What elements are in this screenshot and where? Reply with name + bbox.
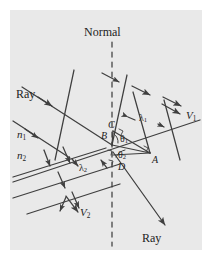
- normal-label: Normal: [84, 26, 121, 38]
- theta1-subscript: 1: [125, 137, 128, 144]
- wavefront-arrow-n2-a: [44, 150, 50, 166]
- incident-ray-label: Ray: [16, 88, 35, 100]
- lambda1-label: λ1: [139, 113, 147, 124]
- incident-wavefront-1: [55, 70, 74, 160]
- lambda1-tick-right: [158, 124, 164, 127]
- wavefront-n2-b: [13, 164, 120, 198]
- lambda2-tick-right: [101, 160, 107, 168]
- incident-ray-arrow-2: [25, 129, 38, 138]
- v1-symbol: V: [186, 109, 193, 121]
- v2-symbol: V: [80, 206, 87, 218]
- lambda2-label: λ2: [79, 163, 87, 174]
- lambda1-subscript: 1: [144, 116, 147, 123]
- wavefront-arrow-n1-0: [102, 73, 119, 82]
- wavefront-arrow-n1-a: [132, 86, 150, 95]
- figure-canvas: Normal Ray Ray n1 n2 θ1 θ2 λ1 λ2 V1 V2 A…: [0, 0, 212, 266]
- wavefront-arrow-n2-e: [60, 197, 66, 211]
- diagram-strokes: [13, 42, 200, 246]
- velocity-v1-label: V1: [186, 110, 196, 123]
- point-d-label: D: [118, 162, 125, 172]
- point-b-label: B: [101, 131, 107, 141]
- refractive-index-n2-label: n2: [17, 150, 26, 163]
- v1-subscript: 1: [193, 115, 197, 123]
- n1-subscript: 1: [23, 134, 27, 142]
- v2-subscript: 2: [87, 212, 91, 220]
- theta1-label: θ1: [120, 134, 128, 145]
- lambda1-tick-left: [128, 117, 135, 120]
- incident-ray-arrow-1: [38, 97, 52, 106]
- point-a-label: A: [152, 155, 158, 165]
- point-c-label: C: [108, 120, 115, 130]
- theta2-label: θ2: [118, 150, 126, 161]
- theta2-subscript: 2: [123, 153, 126, 160]
- refracted-ray-label: Ray: [142, 232, 161, 244]
- velocity-v2-label: V2: [80, 207, 90, 220]
- right-angle-mark-d: [109, 160, 113, 165]
- v1-arrow: [162, 104, 180, 114]
- refractive-index-n1-label: n1: [17, 129, 26, 142]
- wavefront-arrow-n2-c: [58, 172, 65, 188]
- lambda2-subscript: 2: [84, 166, 87, 173]
- n2-subscript: 2: [23, 155, 27, 163]
